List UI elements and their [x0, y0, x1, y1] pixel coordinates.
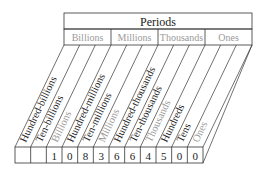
digit-cell: 3	[98, 150, 104, 162]
periods-title: Periods	[140, 15, 176, 29]
digit-cell: 1	[51, 150, 57, 162]
period-label-ones: Ones	[218, 32, 239, 43]
digit-cell: 0	[177, 150, 183, 162]
period-label-thousands: Thousands	[160, 32, 203, 43]
digit-cell: 5	[161, 150, 167, 162]
place-value-chart: Periods BillionsMillionsThousandsOnes Hu…	[0, 0, 263, 171]
digit-cell: 6	[114, 150, 120, 162]
period-label-millions: Millions	[118, 32, 152, 43]
digit-cell: 0	[192, 150, 198, 162]
digit-cell: 8	[83, 150, 89, 162]
periods-header: Periods	[64, 13, 252, 29]
digit-row: 1083664500	[15, 147, 203, 163]
period-label-billions: Billions	[72, 32, 104, 43]
digit-cell: 6	[130, 150, 136, 162]
digit-cell: 0	[67, 150, 73, 162]
digit-cell: 4	[145, 150, 151, 162]
period-row: BillionsMillionsThousandsOnes	[64, 29, 252, 45]
place-columns: Hundred-billionsTen-billionsBillionsHund…	[15, 45, 252, 163]
